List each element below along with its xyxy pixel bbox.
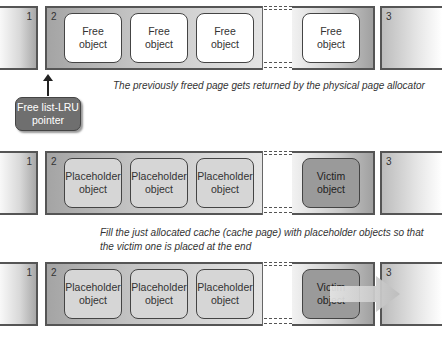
dashed-line [264, 323, 292, 324]
placeholder-object: Placeholderobject [64, 269, 122, 319]
free-object: Freeobject [130, 13, 188, 63]
placeholder-object: Placeholderobject [64, 158, 122, 208]
page-3: 3 [380, 6, 442, 70]
page-number: 1 [26, 267, 32, 278]
dashed-line [264, 318, 292, 319]
gap-divider [262, 6, 263, 70]
row-free-page: 1 2 3 Freeobject Freeobject Freeobject F… [0, 6, 438, 74]
dashed-line [264, 9, 292, 10]
caption-step-1: The previously freed page gets returned … [113, 79, 425, 93]
dashed-line [264, 62, 292, 63]
dashed-line [264, 207, 292, 208]
free-list-lru-pointer: Free list-LRUpointer [15, 97, 81, 131]
dashed-line [264, 265, 292, 266]
row-victim-overflow: 1 2 3 Placeholderobject Placeholderobjec… [0, 262, 438, 330]
page-number: 2 [51, 11, 57, 22]
gap-divider [262, 262, 263, 326]
page-number: 3 [386, 11, 392, 22]
placeholder-object: Placeholderobject [130, 269, 188, 319]
dashed-line [264, 67, 292, 68]
page-number: 2 [51, 267, 57, 278]
page-number: 1 [26, 156, 32, 167]
free-object: Freeobject [64, 13, 122, 63]
page-number: 3 [386, 156, 392, 167]
dashed-line [264, 154, 292, 155]
pointer-arrow [47, 78, 49, 96]
page-3: 3 [380, 151, 442, 215]
page-number: 2 [51, 156, 57, 167]
free-object: Freeobject [302, 13, 360, 63]
caption-step-2: Fill the just allocated cache (cache pag… [100, 226, 424, 254]
dashed-line [264, 6, 292, 7]
page-1: 1 [0, 6, 38, 70]
placeholder-object: Placeholderobject [196, 158, 254, 208]
dashed-line [264, 151, 292, 152]
placeholder-object: Placeholderobject [130, 158, 188, 208]
page-number: 1 [26, 11, 32, 22]
victim-object: Victimobject [302, 158, 360, 208]
page-1: 1 [0, 151, 38, 215]
overflow-arrow-icon [330, 276, 400, 312]
free-object: Freeobject [196, 13, 254, 63]
page-1: 1 [0, 262, 38, 326]
row-placeholder-fill: 1 2 3 Placeholderobject Placeholderobjec… [0, 151, 438, 219]
dashed-line [264, 212, 292, 213]
placeholder-object: Placeholderobject [196, 269, 254, 319]
dashed-line [264, 262, 292, 263]
gap-divider [262, 151, 263, 215]
